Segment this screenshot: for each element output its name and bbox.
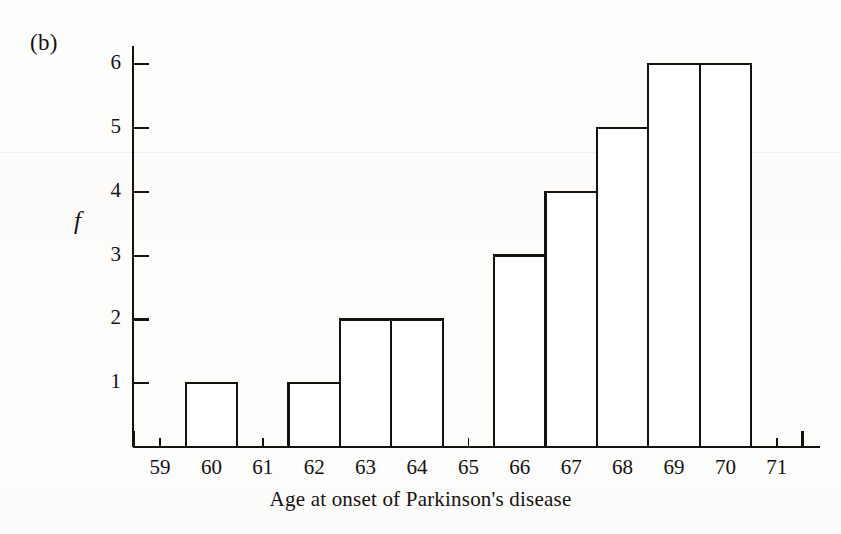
- histogram-bar: [340, 319, 391, 447]
- x-tick-label: 70: [702, 455, 748, 480]
- x-tick-label: 63: [343, 455, 389, 480]
- x-tick-label: 65: [445, 455, 491, 480]
- x-tick-label: 67: [548, 455, 594, 480]
- x-tick-label: 66: [497, 455, 543, 480]
- histogram-bar: [648, 64, 699, 447]
- histogram-bar: [289, 383, 340, 447]
- x-tick-label: 69: [651, 455, 697, 480]
- histogram-bar: [597, 128, 648, 447]
- y-tick-label: 5: [91, 114, 121, 139]
- y-axis-label: f: [74, 207, 81, 235]
- x-tick-label: 68: [600, 455, 646, 480]
- histogram-bar: [700, 64, 751, 447]
- histogram-bar: [494, 256, 545, 447]
- histogram-bar: [391, 319, 442, 447]
- x-tick-label: 59: [137, 455, 183, 480]
- y-tick-label: 6: [91, 50, 121, 75]
- x-tick-label: 60: [188, 455, 234, 480]
- x-tick-label: 61: [240, 455, 286, 480]
- panel-label: (b): [30, 30, 58, 56]
- histogram-bar: [546, 192, 597, 447]
- y-tick-label: 1: [91, 369, 121, 394]
- x-tick-label: 64: [394, 455, 440, 480]
- y-tick-label: 4: [91, 178, 121, 203]
- histogram-plot: [0, 0, 841, 534]
- figure-panel-b: (b) f Age at onset of Parkinson's diseas…: [0, 0, 841, 534]
- x-axis-caption: Age at onset of Parkinson's disease: [0, 487, 841, 512]
- x-tick-label: 71: [754, 455, 800, 480]
- y-tick-label: 3: [91, 242, 121, 267]
- x-tick-label: 62: [291, 455, 337, 480]
- histogram-bars-group: [186, 64, 751, 447]
- y-tick-label: 2: [91, 305, 121, 330]
- histogram-bar: [186, 383, 237, 447]
